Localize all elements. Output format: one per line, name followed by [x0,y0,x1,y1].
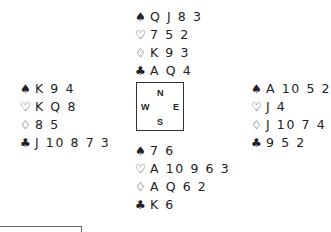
heart-icon: ♡ [135,26,150,44]
heart-icon: ♡ [20,98,35,116]
north-diamonds-row: ♢K 9 3 [135,44,203,62]
south-clubs: K 6 [150,197,175,212]
spade-icon: ♠ [20,80,35,98]
compass-east: E [173,102,179,112]
north-hearts: 7 5 2 [150,27,190,42]
club-icon: ♣ [135,196,150,214]
west-spades: K 9 4 [35,81,75,96]
north-spades: Q J 8 3 [150,9,203,24]
west-hearts-row: ♡K Q 8 [20,98,110,116]
compass-south: S [157,117,163,127]
heart-icon: ♡ [135,160,150,178]
compass-box: N W E S [136,82,184,131]
east-hearts-row: ♡J 4 [251,98,331,116]
diamond-icon: ♢ [135,178,150,196]
diamond-icon: ♢ [20,116,35,134]
north-hearts-row: ♡7 5 2 [135,26,203,44]
compass-west: W [141,102,150,112]
south-diamonds-row: ♢A Q 6 2 [135,178,230,196]
north-clubs-row: ♣A Q 4 [135,62,203,80]
east-clubs: 9 5 2 [266,135,306,150]
north-spades-row: ♠Q J 8 3 [135,8,203,26]
east-spades-row: ♠A 10 5 2 [251,80,331,98]
west-clubs: J 10 8 7 3 [35,135,110,150]
club-icon: ♣ [135,62,150,80]
club-icon: ♣ [251,134,266,152]
east-hearts: J 4 [266,99,286,114]
east-diamonds-row: ♢J 10 7 4 [251,116,331,134]
spade-icon: ♠ [135,142,150,160]
south-clubs-row: ♣K 6 [135,196,230,214]
west-hand: ♠K 9 4 ♡K Q 8 ♢8 5 ♣J 10 8 7 3 [20,80,110,152]
south-hand: ♠7 6 ♡A 10 9 6 3 ♢A Q 6 2 ♣K 6 [135,142,230,214]
east-hand: ♠A 10 5 2 ♡J 4 ♢J 10 7 4 ♣9 5 2 [251,80,331,152]
south-diamonds: A Q 6 2 [150,179,207,194]
west-diamonds: 8 5 [35,117,60,132]
east-diamonds: J 10 7 4 [266,117,326,132]
heart-icon: ♡ [251,98,266,116]
south-spades-row: ♠7 6 [135,142,230,160]
south-hearts-row: ♡A 10 9 6 3 [135,160,230,178]
west-diamonds-row: ♢8 5 [20,116,110,134]
diamond-icon: ♢ [251,116,266,134]
divider-line [0,226,81,227]
south-hearts: A 10 9 6 3 [150,161,230,176]
spade-icon: ♠ [135,8,150,26]
divider-tick [81,226,82,232]
diamond-icon: ♢ [135,44,150,62]
north-hand: ♠Q J 8 3 ♡7 5 2 ♢K 9 3 ♣A Q 4 [135,8,203,80]
west-spades-row: ♠K 9 4 [20,80,110,98]
west-hearts: K Q 8 [35,99,77,114]
north-clubs: A Q 4 [150,63,192,78]
north-diamonds: K 9 3 [150,45,190,60]
compass-north: N [157,88,164,98]
east-spades: A 10 5 2 [266,81,331,96]
west-clubs-row: ♣J 10 8 7 3 [20,134,110,152]
club-icon: ♣ [20,134,35,152]
east-clubs-row: ♣9 5 2 [251,134,331,152]
spade-icon: ♠ [251,80,266,98]
south-spades: 7 6 [150,143,175,158]
